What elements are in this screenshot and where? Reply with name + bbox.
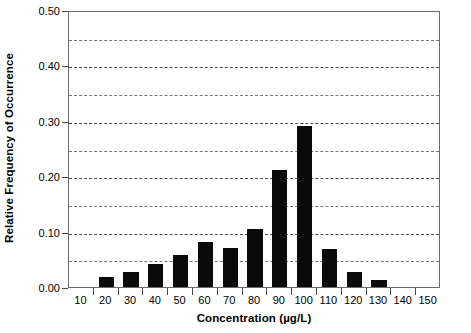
x-axis-tick-label: 40 [149,294,161,306]
y-axis-tick-label: 0.40 [39,60,60,72]
bar-chart: Relative Frequency of Occurrence 0.000.1… [0,0,471,333]
bars-layer [69,12,439,287]
y-axis-tick-label: 0.50 [39,5,60,17]
x-axis-tick-label: 130 [369,294,387,306]
x-axis-tick-label: 80 [248,294,260,306]
bar [223,248,238,287]
bar [371,280,386,287]
y-axis-title: Relative Frequency of Occurrence [0,0,18,295]
bar [297,126,312,287]
x-axis-tick-label: 20 [99,294,111,306]
y-axis-tick-label: 0.20 [39,171,60,183]
x-axis-tick-label: 140 [394,294,412,306]
x-axis-tick-label: 120 [344,294,362,306]
x-axis-tick-label: 60 [198,294,210,306]
bar [173,255,188,287]
x-axis-tick-label: 50 [173,294,185,306]
bar [322,249,337,287]
y-axis-tick-labels: 0.000.100.200.300.400.50 [19,0,64,295]
bar [99,277,114,287]
x-axis-tick-label: 10 [74,294,86,306]
y-axis-tick-label: 0.30 [39,116,60,128]
y-axis-tick-label: 0.10 [39,227,60,239]
bar [247,229,262,287]
x-axis-tick-label: 110 [320,294,338,306]
bar [148,264,163,287]
x-axis-tick-label: 30 [124,294,136,306]
x-axis-title: Concentration (µg/L) [68,312,440,324]
y-axis-tick-label: 0.00 [39,282,60,294]
bar [198,242,213,287]
plot-area [68,11,440,288]
x-axis-tick-label: 150 [418,294,436,306]
bar [347,272,362,288]
y-axis-title-text: Relative Frequency of Occurrence [3,53,15,243]
x-axis-tick-label: 100 [294,294,312,306]
x-axis-tick-label: 90 [273,294,285,306]
x-axis-tick-labels: 102030405060708090100110120130140150 [68,294,440,310]
bar [123,272,138,287]
x-axis-tick-label: 70 [223,294,235,306]
bar [272,170,287,287]
